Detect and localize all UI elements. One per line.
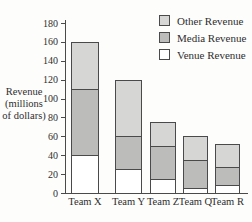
y-tick-mark (61, 193, 65, 194)
bar-segment-team-z-other-revenue (150, 122, 176, 147)
x-axis-label-team-r: Team R (207, 196, 248, 207)
y-tick-label: 0 (18, 189, 58, 199)
y-tick-mark (61, 42, 65, 43)
stacked-bar-chart: Revenue (millions of dollars) Other Reve… (0, 0, 252, 222)
y-tick-mark (61, 174, 65, 175)
legend-item-media-revenue: Media Revenue (159, 29, 246, 46)
y-tick-label: 140 (18, 56, 58, 66)
bar-segment-team-x-other-revenue (71, 42, 99, 90)
legend-swatch-icon (159, 32, 170, 43)
y-tick-label: 60 (18, 132, 58, 142)
y-tick-label: 80 (18, 113, 58, 123)
bar-segment-team-z-media-revenue (150, 146, 176, 180)
bar-segment-team-x-venue-revenue (71, 155, 99, 194)
y-tick-label: 160 (18, 37, 58, 47)
legend-item-venue-revenue: Venue Revenue (159, 46, 246, 63)
legend-label: Other Revenue (177, 15, 243, 27)
y-tick-mark (61, 61, 65, 62)
y-tick-mark (61, 99, 65, 100)
y-tick-mark (61, 136, 65, 137)
bar-segment-team-x-media-revenue (71, 89, 99, 156)
bar-segment-team-r-media-revenue (215, 167, 240, 187)
y-tick-label: 20 (18, 170, 58, 180)
bar-segment-team-y-other-revenue (115, 80, 142, 138)
legend-label: Media Revenue (177, 32, 246, 44)
y-tick-label: 100 (18, 94, 58, 104)
y-axis-line (65, 20, 66, 194)
legend-item-other-revenue: Other Revenue (159, 12, 246, 29)
bar-segment-team-z-venue-revenue (150, 179, 176, 194)
y-tick-mark (61, 117, 65, 118)
bar-segment-team-y-venue-revenue (115, 169, 142, 194)
bar-segment-team-r-venue-revenue (215, 185, 240, 194)
y-tick-mark (61, 23, 65, 24)
bar-segment-team-y-media-revenue (115, 136, 142, 170)
y-tick-label: 120 (18, 75, 58, 85)
bar-segment-team-q-other-revenue (183, 136, 208, 161)
legend-swatch-icon (159, 49, 170, 60)
legend-label: Venue Revenue (177, 49, 246, 61)
bar-segment-team-q-media-revenue (183, 160, 208, 189)
y-tick-mark (61, 80, 65, 81)
y-tick-label: 180 (18, 19, 58, 29)
y-tick-mark (61, 155, 65, 156)
legend: Other RevenueMedia RevenueVenue Revenue (159, 12, 246, 63)
bar-segment-team-r-other-revenue (215, 144, 240, 168)
x-axis-label-team-x: Team X (63, 196, 107, 207)
y-tick-label: 40 (18, 151, 58, 161)
legend-swatch-icon (159, 15, 170, 26)
